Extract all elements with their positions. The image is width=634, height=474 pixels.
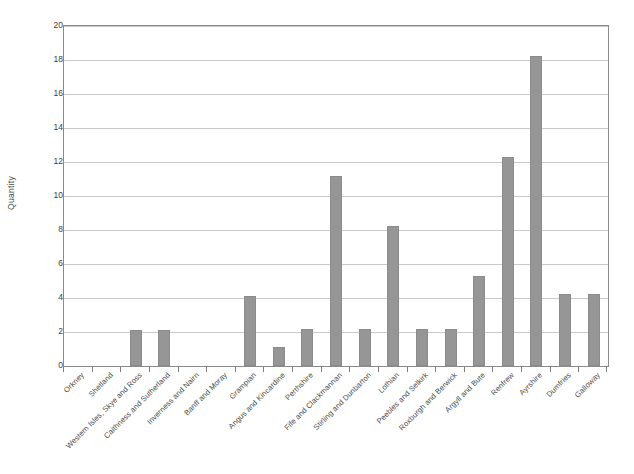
x-axis-labels: OrkneyShetlandWestern Isles, Skye and Ro… (63, 372, 609, 472)
y-tick-label: 14 (37, 122, 63, 132)
y-axis: 02468101214161820 (27, 25, 63, 367)
y-tick-label: 10 (37, 190, 63, 200)
bar (330, 176, 342, 366)
y-tick-label: 16 (37, 88, 63, 98)
y-axis-title: Quantity (6, 140, 16, 210)
y-tick-label: 0 (37, 360, 63, 370)
gridline (64, 26, 608, 27)
gridline (64, 128, 608, 129)
chart-title (130, 0, 530, 6)
y-tick-label: 8 (37, 224, 63, 234)
y-tick-label: 4 (37, 292, 63, 302)
bar (530, 56, 542, 366)
y-tick-label: 12 (37, 156, 63, 166)
gridline (64, 162, 608, 163)
gridline (64, 94, 608, 95)
y-tick-label: 2 (37, 326, 63, 336)
bar-chart: Quantity 02468101214161820 OrkneyShetlan… (0, 0, 634, 474)
plot-area (63, 25, 609, 367)
y-tick-label: 20 (37, 20, 63, 30)
gridline (64, 60, 608, 61)
y-tick-label: 18 (37, 54, 63, 64)
y-tick-label: 6 (37, 258, 63, 268)
